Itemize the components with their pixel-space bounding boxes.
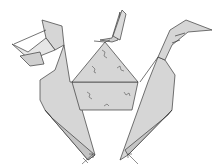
left-head	[12, 20, 64, 66]
right-head	[158, 20, 212, 60]
origami-drawing	[0, 0, 224, 168]
center-figure	[72, 10, 138, 82]
fold-arrow-right	[128, 154, 138, 164]
origami-diagram	[0, 0, 224, 168]
center-panel	[72, 82, 138, 110]
